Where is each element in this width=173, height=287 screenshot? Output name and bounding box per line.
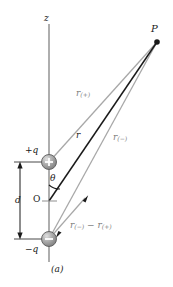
negative-charge-label: −q bbox=[25, 245, 38, 254]
r-plus-label: r(+) bbox=[76, 89, 90, 98]
figure-caption: (a) bbox=[51, 265, 63, 274]
theta-label: θ bbox=[50, 174, 55, 183]
separation-d-label: d bbox=[15, 196, 21, 205]
r-label: r bbox=[76, 131, 80, 140]
dipole-figure: z P r(+) r r(−) +q θ d O r(−) − r(+) −q … bbox=[0, 0, 173, 287]
ray-r-main bbox=[49, 42, 157, 201]
r-minus-label: r(−) bbox=[113, 133, 127, 142]
dimension-arrow-top bbox=[17, 162, 22, 169]
dimension-arrow-bottom bbox=[17, 233, 22, 240]
diff-part1-subscript: (−) bbox=[74, 223, 84, 230]
segment-r-difference bbox=[49, 198, 85, 239]
r-plus-subscript: (+) bbox=[80, 91, 90, 98]
ray-r-minus bbox=[49, 42, 157, 239]
diff-operator: − bbox=[84, 220, 97, 230]
difference-arrowhead-upper bbox=[83, 195, 89, 202]
r-minus-subscript: (−) bbox=[117, 135, 127, 142]
point-p-label: P bbox=[151, 24, 158, 34]
r-difference-label: r(−) − r(+) bbox=[70, 221, 112, 230]
origin-label: O bbox=[33, 195, 40, 204]
point-p-dot bbox=[154, 39, 160, 45]
diff-part2-subscript: (+) bbox=[102, 223, 112, 230]
ray-r-plus bbox=[49, 42, 157, 162]
z-axis-label: z bbox=[44, 14, 49, 23]
positive-charge-label: +q bbox=[25, 146, 38, 155]
